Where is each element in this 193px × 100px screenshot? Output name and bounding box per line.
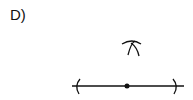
midpoint-dot (125, 84, 130, 89)
construction-diagram (0, 0, 193, 100)
upper-arc-two (128, 41, 139, 56)
